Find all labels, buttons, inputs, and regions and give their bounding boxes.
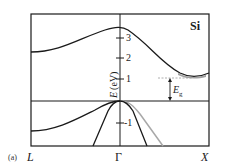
x-tick-label-gamma: Γ bbox=[115, 150, 122, 164]
gap-label: Eg bbox=[172, 84, 183, 98]
y-tick-label-minus1: -1 bbox=[124, 117, 132, 128]
valence-band-l-branch bbox=[31, 101, 120, 131]
x-tick-label-l: L bbox=[26, 150, 34, 164]
panel-label: (a) bbox=[8, 153, 17, 162]
y-axis-label: E(eV) bbox=[108, 72, 120, 99]
x-tick-label-x: X bbox=[200, 150, 209, 164]
y-tick-label-3: 3 bbox=[126, 32, 131, 43]
y-tick-label-1: 1 bbox=[126, 73, 131, 84]
y-tick-label-2: 2 bbox=[126, 52, 131, 63]
material-label: Si bbox=[190, 19, 201, 33]
gap-arrow bbox=[168, 78, 172, 101]
band-structure-diagram: 3 2 1 -1 E(eV) Eg Si (a) L Γ X bbox=[0, 0, 232, 166]
